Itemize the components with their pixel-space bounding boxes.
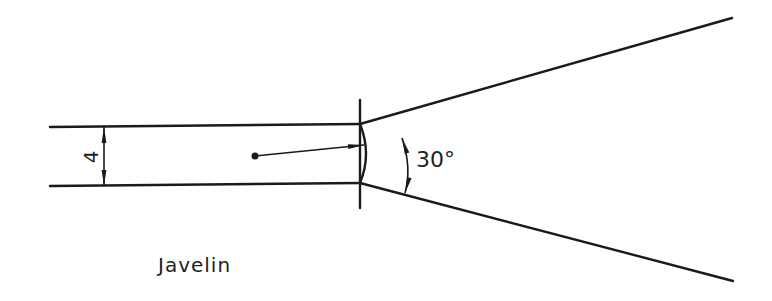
- throw-origin-dot: [252, 153, 259, 160]
- width-dimension-label: 4: [79, 151, 103, 164]
- sector-bottom-line: [360, 183, 733, 281]
- angle-dimension-arc: [402, 138, 408, 193]
- sector-top-line: [360, 18, 732, 124]
- runway-top-line: [50, 124, 360, 127]
- runway-bottom-line: [50, 183, 360, 186]
- diagram-title: Javelin: [156, 253, 231, 277]
- javelin-diagram: 4 30° Javelin: [0, 0, 772, 301]
- throw-vector-arrow: [255, 145, 364, 156]
- diagram-svg: 4 30° Javelin: [0, 0, 772, 301]
- angle-dimension-label: 30°: [416, 147, 455, 172]
